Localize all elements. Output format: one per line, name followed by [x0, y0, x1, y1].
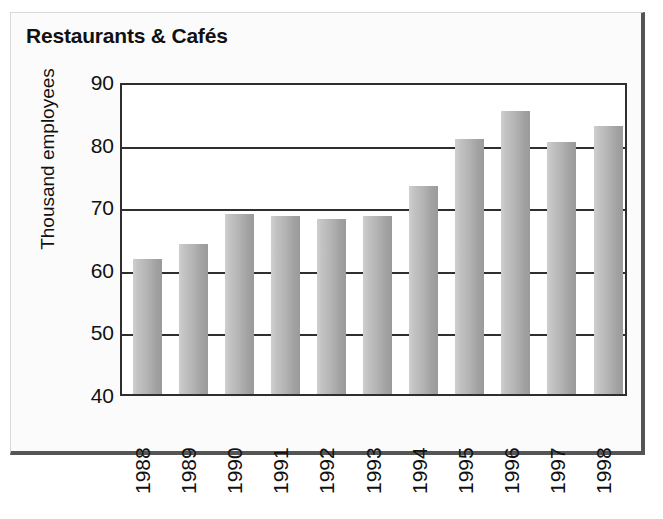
- bar: [409, 186, 438, 394]
- y-axis-tick-labels: 908070605040: [56, 83, 114, 396]
- x-axis-tick: 1990: [224, 398, 245, 494]
- x-axis-tick: 1998: [593, 398, 614, 494]
- plot-area: [120, 83, 627, 396]
- x-axis-tick: 1994: [409, 398, 430, 494]
- bar: [225, 214, 254, 394]
- x-axis-tick: 1991: [270, 398, 291, 494]
- y-axis-tick: 60: [62, 260, 114, 281]
- y-axis-tick: 40: [62, 385, 114, 406]
- x-axis-tick: 1988: [132, 398, 153, 494]
- x-axis-tick: 1992: [316, 398, 337, 494]
- bar: [363, 216, 392, 394]
- x-axis-tick: 1993: [363, 398, 384, 494]
- y-axis-tick: 50: [62, 322, 114, 343]
- x-axis-tick: 1997: [547, 398, 568, 494]
- x-axis-tick: 1989: [178, 398, 199, 494]
- bar: [179, 244, 208, 394]
- bar: [501, 111, 530, 394]
- bar: [455, 139, 484, 394]
- x-axis-tick: 1995: [455, 398, 476, 494]
- bar: [271, 216, 300, 394]
- chart-title: Restaurants & Cafés: [26, 24, 228, 48]
- y-axis-tick: 70: [62, 197, 114, 218]
- bar: [594, 126, 623, 394]
- y-axis-tick: 80: [62, 135, 114, 156]
- y-axis-tick: 90: [62, 72, 114, 93]
- bar: [133, 259, 162, 394]
- bar: [317, 219, 346, 394]
- chart-figure: Restaurants & Cafés Thousand employees 9…: [0, 0, 663, 519]
- x-axis-tick-labels: 1988198919901991199219931994199519961997…: [120, 400, 627, 450]
- bar: [547, 142, 576, 394]
- x-axis-tick: 1996: [501, 398, 522, 494]
